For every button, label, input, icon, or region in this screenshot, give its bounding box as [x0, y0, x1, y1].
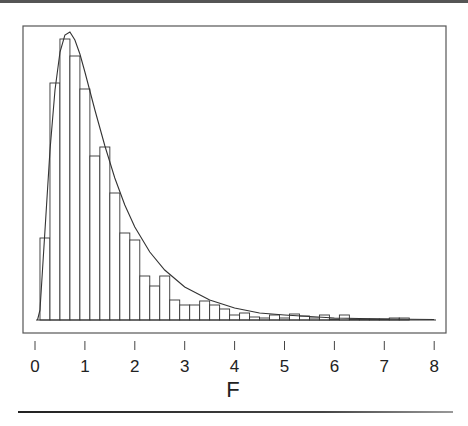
- x-tick-label: 4: [230, 357, 239, 376]
- histogram-bar: [180, 305, 190, 320]
- histogram-bar: [100, 147, 110, 320]
- x-tick-label: 8: [429, 357, 438, 376]
- histogram-bar: [220, 309, 230, 320]
- histogram-bar: [90, 156, 100, 320]
- histogram-bar: [50, 83, 60, 320]
- histogram-chart: 012345678 F: [0, 0, 468, 426]
- histogram-bar: [140, 276, 150, 320]
- histogram-bar: [70, 56, 80, 320]
- histogram-bar: [110, 193, 120, 320]
- histogram-bar: [160, 276, 170, 320]
- histogram-bar: [230, 315, 240, 320]
- x-tick-label: 1: [80, 357, 89, 376]
- x-tick-label: 2: [130, 357, 139, 376]
- x-axis-title: F: [226, 377, 239, 402]
- histogram-bars: [40, 39, 409, 320]
- histogram-bar: [130, 240, 140, 320]
- histogram-bar: [80, 89, 90, 320]
- histogram-bar: [339, 315, 349, 320]
- histogram-bar: [200, 301, 210, 320]
- histogram-bar: [210, 305, 220, 320]
- histogram-bar: [190, 305, 200, 320]
- x-tick-label: 7: [380, 357, 389, 376]
- histogram-bar: [270, 315, 280, 320]
- histogram-bar: [120, 233, 130, 320]
- histogram-bar: [60, 39, 70, 320]
- x-tick-label: 3: [180, 357, 189, 376]
- x-tick-label: 6: [330, 357, 339, 376]
- bottom-rule: [18, 411, 453, 413]
- histogram-bar: [170, 300, 180, 320]
- histogram-bar: [240, 313, 250, 320]
- histogram-bar: [150, 286, 160, 320]
- x-tick-label: 5: [280, 357, 289, 376]
- x-tick-label: 0: [30, 357, 39, 376]
- x-axis-ticks: 012345678: [30, 341, 439, 376]
